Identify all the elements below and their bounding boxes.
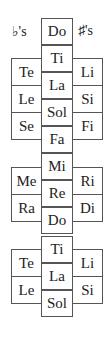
center-syllable-box: Do [41, 18, 73, 45]
center-syllable-box: Sol [41, 290, 73, 317]
left-syllable-box: Ra [11, 194, 42, 222]
right-syllable-box: Di [72, 194, 103, 222]
center-syllable-box: Re [41, 180, 73, 207]
right-syllable-box: Fi [72, 112, 103, 140]
right-syllable-box: Li [72, 58, 103, 86]
center-syllable-box: La [41, 263, 73, 290]
center-syllable-box: Do [41, 207, 73, 234]
center-syllable-box: Sol [41, 99, 73, 126]
left-syllable-box: Se [11, 112, 42, 140]
left-syllable-box: Me [11, 167, 42, 195]
right-syllable-box: Si [72, 276, 103, 304]
right-syllable-box: Si [72, 85, 103, 113]
sharps-header: ♯'s [78, 23, 93, 39]
center-syllable-box: Ti [41, 236, 73, 263]
center-syllable-box: Ti [41, 45, 73, 72]
left-syllable-box: Te [11, 249, 42, 277]
flats-header: ♭'s [12, 23, 27, 40]
center-syllable-box: Fa [41, 126, 73, 153]
center-syllable-box: Mi [41, 153, 73, 180]
left-syllable-box: Le [11, 276, 42, 304]
left-syllable-box: Te [11, 58, 42, 86]
right-syllable-box: Ri [72, 167, 103, 195]
center-syllable-box: La [41, 72, 73, 99]
right-syllable-box: Li [72, 249, 103, 277]
left-syllable-box: Le [11, 85, 42, 113]
